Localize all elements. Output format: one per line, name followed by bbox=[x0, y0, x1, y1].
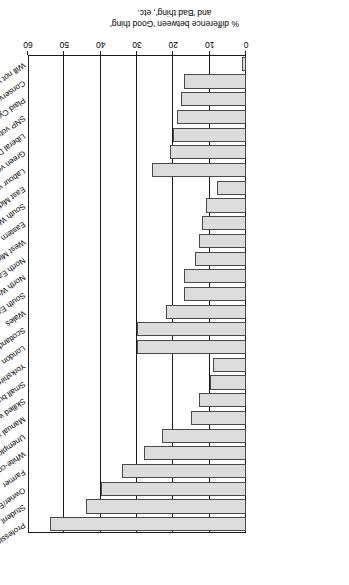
bar bbox=[210, 375, 246, 389]
bar bbox=[86, 499, 246, 513]
bar bbox=[162, 429, 246, 443]
value-axis-title-line1: % difference between 'Good thing' bbox=[0, 18, 349, 29]
bar bbox=[192, 411, 247, 425]
gridline bbox=[63, 55, 64, 533]
gridline bbox=[100, 55, 101, 533]
axis-tick bbox=[100, 51, 101, 55]
bar bbox=[202, 216, 246, 230]
axis-tick-label: 20 bbox=[158, 40, 188, 49]
bar bbox=[173, 128, 246, 142]
axis-tick-label: 30 bbox=[122, 40, 152, 49]
bar bbox=[184, 287, 246, 301]
value-axis-title-line2: and 'Bad thing', etc. bbox=[0, 7, 349, 18]
bar bbox=[137, 340, 246, 354]
axis-tick-label: 0 bbox=[231, 40, 261, 49]
bar bbox=[170, 145, 246, 159]
bar bbox=[101, 482, 246, 496]
bar bbox=[152, 163, 246, 177]
bar-chart: 0102030405060ProfessionalStudentOwner/Em… bbox=[0, 0, 349, 585]
bar bbox=[195, 252, 246, 266]
value-axis-title: % difference between 'Good thing' and 'B… bbox=[0, 7, 349, 29]
bar bbox=[199, 393, 246, 407]
axis-tick-label: 60 bbox=[13, 40, 43, 49]
axis-tick bbox=[136, 51, 137, 55]
axis-tick bbox=[172, 51, 173, 55]
bar bbox=[217, 181, 246, 195]
bar bbox=[184, 269, 246, 283]
bar bbox=[181, 92, 246, 106]
axis-tick-label: 10 bbox=[195, 40, 225, 49]
axis-tick bbox=[27, 51, 28, 55]
axis-tick bbox=[245, 51, 246, 55]
bar bbox=[242, 57, 246, 71]
chart-figure: 0102030405060ProfessionalStudentOwner/Em… bbox=[0, 0, 349, 585]
axis-tick-label: 40 bbox=[86, 40, 116, 49]
bar bbox=[166, 305, 246, 319]
bar bbox=[184, 74, 246, 88]
bar bbox=[122, 464, 246, 478]
bar bbox=[50, 517, 246, 531]
bar bbox=[144, 446, 246, 460]
bar bbox=[199, 234, 246, 248]
bar bbox=[213, 358, 246, 372]
gridline bbox=[136, 55, 137, 533]
bar bbox=[177, 110, 246, 124]
axis-tick bbox=[63, 51, 64, 55]
axis-tick bbox=[209, 51, 210, 55]
axis-tick-label: 50 bbox=[49, 40, 79, 49]
bar bbox=[137, 322, 246, 336]
bar bbox=[206, 198, 246, 212]
